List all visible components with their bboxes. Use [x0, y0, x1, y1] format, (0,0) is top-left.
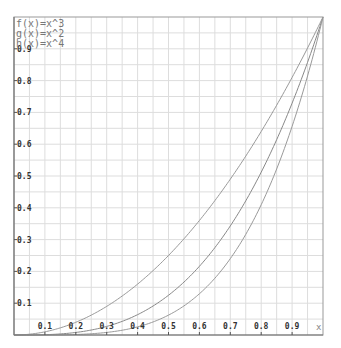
plot-background	[0, 0, 341, 348]
grid-lines	[14, 17, 323, 335]
y-tick-label: 0.4	[17, 204, 32, 213]
y-tick-label: 0.2	[17, 267, 32, 276]
legend-entry: h(x)=x^4	[16, 38, 64, 49]
y-tick-label: 0.7	[17, 108, 32, 117]
legend: f(x)=x^3g(x)=x^2h(x)=x^4	[16, 18, 64, 49]
function-plot: 0.10.20.30.40.50.60.70.80.9 0.10.20.30.4…	[0, 0, 341, 348]
y-tick-label: 0.5	[17, 172, 32, 181]
x-tick-label: 0.2	[69, 322, 84, 331]
x-axis-label: x	[316, 322, 322, 332]
x-tick-label: 0.7	[223, 322, 238, 331]
y-tick-label: 0.1	[17, 299, 32, 308]
y-tick-label: 0.3	[17, 236, 32, 245]
x-tick-label: 0.3	[99, 322, 114, 331]
x-tick-label: 0.5	[161, 322, 176, 331]
x-tick-label: 0.1	[38, 322, 53, 331]
y-axis-ticks: 0.10.20.30.40.50.60.70.80.9	[14, 45, 32, 308]
x-tick-label: 0.8	[254, 322, 269, 331]
x-tick-label: 0.4	[130, 322, 145, 331]
x-tick-label: 0.6	[192, 322, 207, 331]
y-tick-label: 0.8	[17, 77, 32, 86]
y-tick-label: 0.6	[17, 140, 32, 149]
x-tick-label: 0.9	[285, 322, 300, 331]
